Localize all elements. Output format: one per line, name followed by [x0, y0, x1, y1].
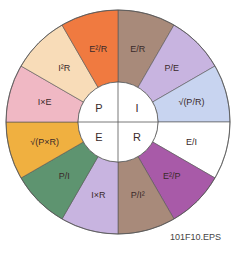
formula-label: I×R: [91, 190, 106, 200]
formula-label: √(P/R): [178, 97, 204, 107]
formula-label: P/I: [59, 171, 70, 181]
hub-variable-label: P: [95, 102, 102, 114]
formula-label: P/I²: [131, 190, 145, 200]
hub-variable-label: R: [133, 131, 141, 143]
formula-label: √(P×R): [30, 137, 59, 147]
hub-variable-label: I: [135, 102, 138, 114]
figure-caption: 101F10.EPS: [170, 232, 221, 242]
formula-label: E/R: [130, 44, 146, 54]
formula-label: E²/P: [163, 171, 181, 181]
formula-label: E²/R: [89, 44, 108, 54]
ohms-law-wheel: PIER E/RP/E√(P/R)E/IE²/PP/I²I×RP/I√(P×R)…: [0, 0, 237, 240]
hub-variable-label: E: [95, 131, 102, 143]
formula-label: I×E: [38, 97, 52, 107]
formula-label: P/E: [164, 63, 179, 73]
formula-label: I²R: [58, 63, 70, 73]
formula-label: E/I: [186, 137, 197, 147]
